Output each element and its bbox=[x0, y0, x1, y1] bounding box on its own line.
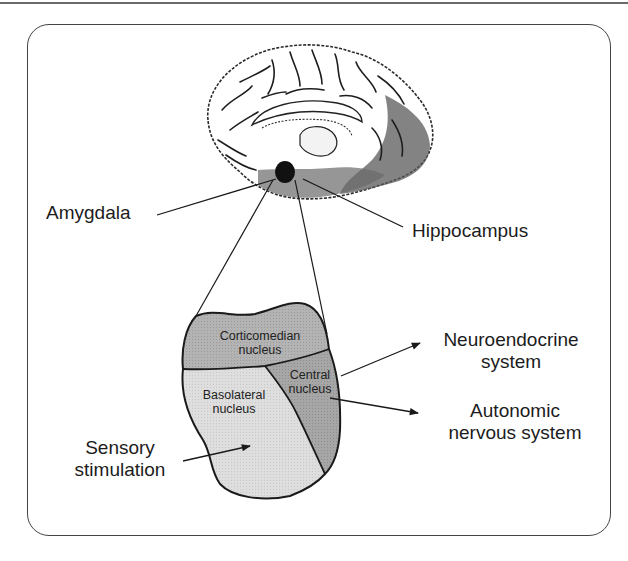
zoom-line-left bbox=[196, 180, 273, 316]
arrow-to-neuroendocrine bbox=[341, 343, 420, 376]
label-sensory-stimulation: Sensory stimulation bbox=[60, 437, 180, 481]
label-corticomedian-nucleus: Corticomedian nucleus bbox=[197, 329, 323, 357]
label-hippocampus: Hippocampus bbox=[412, 220, 528, 242]
basolateral-line2: nucleus bbox=[190, 402, 278, 416]
label-autonomic-line1: Autonomic bbox=[430, 400, 600, 422]
corticomedian-line2: nucleus bbox=[197, 343, 323, 357]
label-autonomic: Autonomic nervous system bbox=[430, 400, 600, 444]
arrow-to-autonomic bbox=[330, 398, 418, 413]
label-autonomic-line2: nervous system bbox=[430, 422, 600, 444]
corticomedian-line1: Corticomedian bbox=[197, 329, 323, 343]
label-amygdala: Amygdala bbox=[46, 202, 131, 224]
label-basolateral-nucleus: Basolateral nucleus bbox=[190, 388, 278, 416]
central-line1: Central bbox=[280, 368, 340, 382]
label-neuroendocrine: Neuroendocrine system bbox=[426, 329, 596, 373]
label-neuroendocrine-line2: system bbox=[426, 351, 596, 373]
amygdala-leader-line bbox=[157, 179, 276, 215]
central-line2: nucleus bbox=[280, 382, 340, 396]
label-sensory-line2: stimulation bbox=[60, 459, 180, 481]
amygdala-spot bbox=[275, 161, 295, 183]
label-neuroendocrine-line1: Neuroendocrine bbox=[426, 329, 596, 351]
label-central-nucleus: Central nucleus bbox=[280, 368, 340, 396]
basolateral-line1: Basolateral bbox=[190, 388, 278, 402]
brain-illustration bbox=[208, 45, 433, 199]
label-sensory-line1: Sensory bbox=[60, 437, 180, 459]
